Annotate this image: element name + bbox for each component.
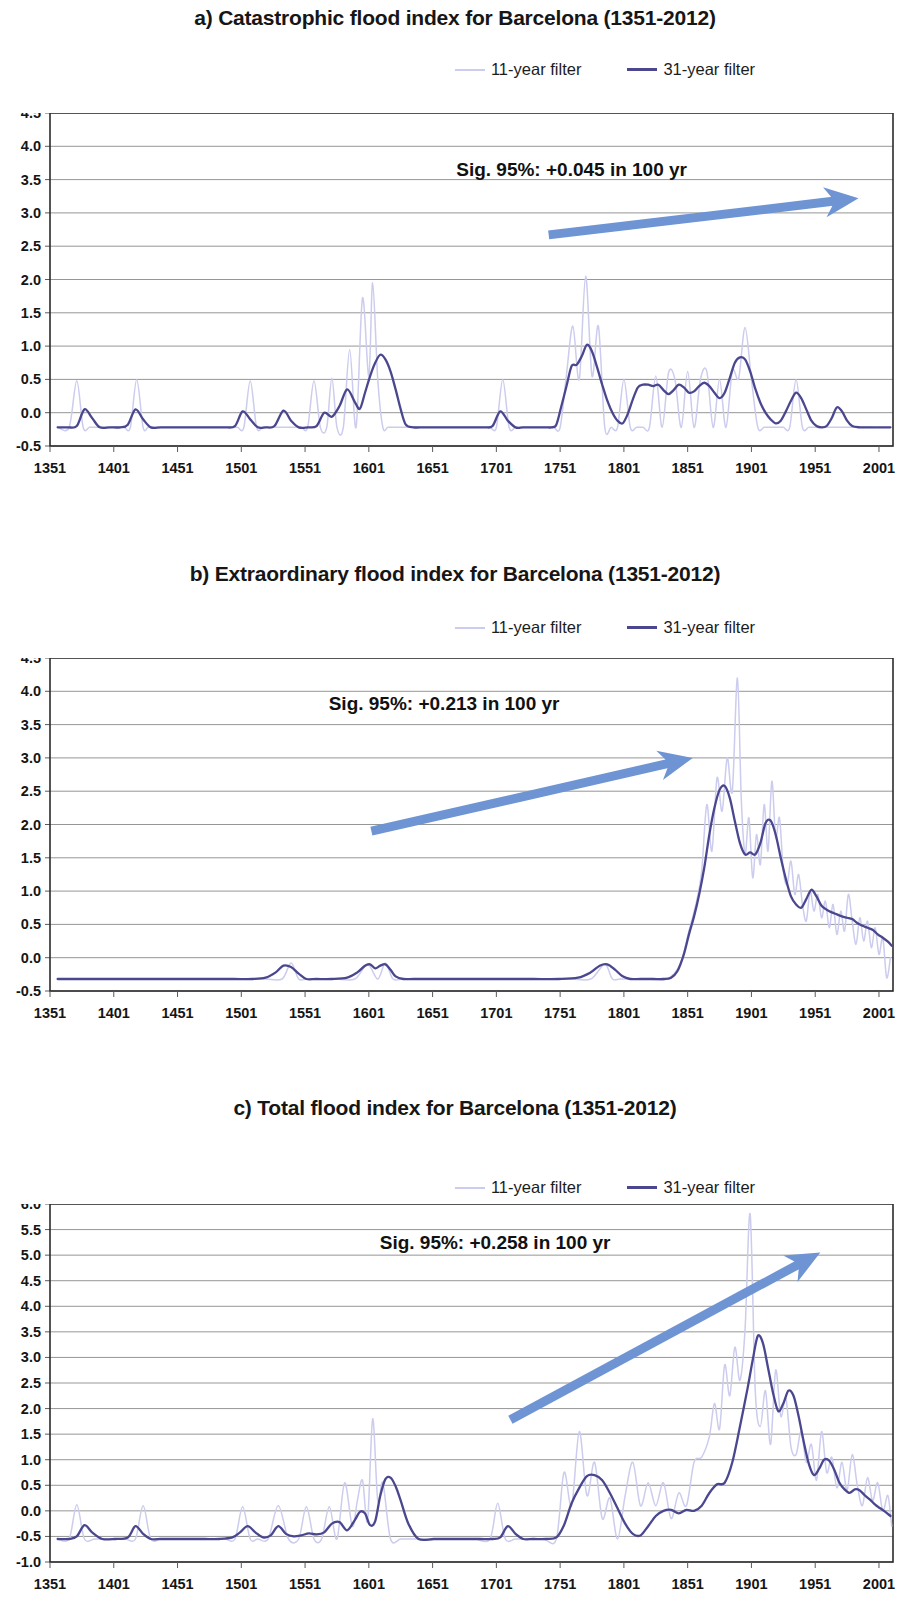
x-axis-tick-label: 1601 [353,460,385,476]
x-axis-tick-label: 2001 [863,1576,895,1592]
series-line-11-year-filter [58,1214,892,1544]
y-axis-tick-label: -0.5 [16,983,41,999]
significance-annotation: Sig. 95%: +0.045 in 100 yr [456,159,687,180]
x-axis-tick-label: 1701 [480,460,512,476]
y-axis-tick-label: 3.5 [21,172,41,188]
x-axis-tick-label: 1351 [34,1005,66,1021]
x-axis-tick-label: 1451 [161,1005,193,1021]
legend-entry-a-0: 11-year filter [455,60,581,79]
chart-svg-c: -1.0-0.50.00.51.01.52.02.53.03.54.04.55.… [0,1204,910,1604]
y-axis-tick-label: 2.0 [21,272,41,288]
x-axis-tick-label: 1751 [544,1005,576,1021]
y-axis-tick-label: 4.0 [21,683,41,699]
legend-entry-label: 11-year filter [491,60,581,79]
x-axis-tick-label: 1801 [608,1576,640,1592]
chart-legend-c: 11-year filter 31-year filter [0,1178,910,1197]
x-axis-tick-label: 1601 [353,1576,385,1592]
y-axis-tick-label: 2.0 [21,817,41,833]
significance-annotation: Sig. 95%: +0.258 in 100 yr [380,1232,611,1253]
trend-arrow-shaft [371,764,667,831]
y-axis-tick-label: 4.5 [21,1273,41,1289]
panel-title-b: b) Extraordinary flood index for Barcelo… [0,562,910,586]
x-axis-tick-label: 1351 [34,460,66,476]
x-axis-tick-label: 1701 [480,1576,512,1592]
x-axis-tick-label: 1651 [416,1576,448,1592]
legend-entry-c-1: 31-year filter [627,1178,755,1197]
y-axis-tick-label: -1.0 [16,1554,41,1570]
y-axis-tick-label: 5.0 [21,1247,41,1263]
y-axis-tick-label: 3.0 [21,1349,41,1365]
y-axis-tick-label: 4.0 [21,1298,41,1314]
x-axis-tick-label: 1651 [416,1005,448,1021]
y-axis-tick-label: 2.5 [21,238,41,254]
legend-entry-label: 31-year filter [663,60,755,79]
x-axis-tick-label: 1801 [608,460,640,476]
x-axis-tick-label: 1851 [672,460,704,476]
series-line-11-year-filter [58,678,891,980]
x-axis-tick-label: 1851 [672,1576,704,1592]
line-swatch-icon [627,68,657,71]
x-axis-tick-label: 1401 [98,1576,130,1592]
y-axis-tick-label: 3.0 [21,205,41,221]
y-axis-tick-label: 0.5 [21,916,41,932]
y-axis-tick-label: 0.5 [21,371,41,387]
legend-entry-label: 11-year filter [491,618,581,637]
line-swatch-icon [627,626,657,629]
x-axis-tick-label: 1501 [225,1005,257,1021]
legend-entry-label: 31-year filter [663,1178,755,1197]
line-swatch-icon [627,1186,657,1189]
x-axis-tick-label: 1501 [225,1576,257,1592]
x-axis-tick-label: 1951 [799,1005,831,1021]
x-axis-tick-label: 1551 [289,1005,321,1021]
x-axis-tick-label: 1451 [161,460,193,476]
x-axis-tick-label: 1851 [672,1005,704,1021]
x-axis-tick-label: 1801 [608,1005,640,1021]
y-axis-tick-label: 1.5 [21,850,41,866]
y-axis-tick-label: 0.0 [21,950,41,966]
panel-title-a: a) Catastrophic flood index for Barcelon… [0,6,910,30]
legend-entry-a-1: 31-year filter [627,60,755,79]
x-axis-tick-label: 1551 [289,460,321,476]
x-axis-tick-label: 1901 [735,1576,767,1592]
x-axis-tick-label: 1551 [289,1576,321,1592]
line-swatch-icon [455,69,485,71]
x-axis-tick-label: 1951 [799,460,831,476]
chart-legend-b: 11-year filter 31-year filter [0,618,910,637]
chart-plot-area-a: -0.50.00.51.01.52.02.53.03.54.04.5Sig. 9… [0,113,910,488]
y-axis-tick-label: 1.0 [21,883,41,899]
chart-plot-area-c: -1.0-0.50.00.51.01.52.02.53.03.54.04.55.… [0,1204,910,1604]
y-axis-tick-label: 3.0 [21,750,41,766]
x-axis-tick-label: 1751 [544,460,576,476]
line-swatch-icon [455,627,485,629]
x-axis-tick-label: 1901 [735,1005,767,1021]
x-axis-tick-label: 1401 [98,1005,130,1021]
y-axis-tick-label: 0.0 [21,405,41,421]
x-axis-tick-label: 1651 [416,460,448,476]
x-axis-tick-label: 1451 [161,1576,193,1592]
y-axis-tick-label: 1.5 [21,1426,41,1442]
series-line-11-year-filter [58,276,873,435]
series-line-31-year-filter [58,1335,891,1540]
y-axis-tick-label: 1.5 [21,305,41,321]
chart-plot-area-b: -0.50.00.51.01.52.02.53.03.54.04.5Sig. 9… [0,658,910,1033]
x-axis-tick-label: 1751 [544,1576,576,1592]
legend-entry-label: 11-year filter [491,1178,581,1197]
legend-entry-label: 31-year filter [663,618,755,637]
y-axis-tick-label: -0.5 [16,438,41,454]
y-axis-tick-label: 2.0 [21,1401,41,1417]
y-axis-tick-label: 2.5 [21,1375,41,1391]
line-swatch-icon [455,1187,485,1189]
y-axis-tick-label: 6.0 [21,1204,41,1212]
x-axis-tick-label: 1701 [480,1005,512,1021]
significance-annotation: Sig. 95%: +0.213 in 100 yr [329,693,560,714]
y-axis-tick-label: 4.5 [21,658,41,666]
chart-legend-a: 11-year filter 31-year filter [0,60,910,79]
chart-svg-b: -0.50.00.51.01.52.02.53.03.54.04.5Sig. 9… [0,658,910,1033]
y-axis-tick-label: 1.0 [21,1452,41,1468]
trend-arrow-shaft [549,201,833,235]
y-axis-tick-label: 4.0 [21,138,41,154]
y-axis-tick-label: 0.5 [21,1477,41,1493]
series-line-31-year-filter [58,345,891,428]
series-line-31-year-filter [58,785,892,979]
y-axis-tick-label: 3.5 [21,1324,41,1340]
